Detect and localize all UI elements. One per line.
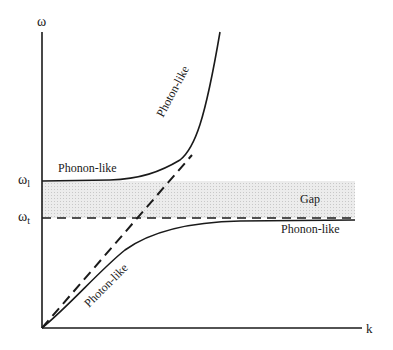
lower-phonon-like-label: Phonon-like <box>281 222 340 236</box>
omega-l-label: ωl <box>18 172 30 189</box>
upper-phonon-like-label: Phonon-like <box>58 161 117 175</box>
x-axis-label: k <box>366 321 373 336</box>
upper-branch-curve <box>42 32 220 181</box>
omega-t-label: ωt <box>18 209 30 226</box>
y-axis-label: ω <box>37 14 46 29</box>
polariton-diagram: ω k ωl ωt Phonon-like Photon-like Gap Ph… <box>0 0 393 350</box>
gap-label: Gap <box>300 192 320 206</box>
upper-photon-like-label: Photon-like <box>153 63 192 119</box>
